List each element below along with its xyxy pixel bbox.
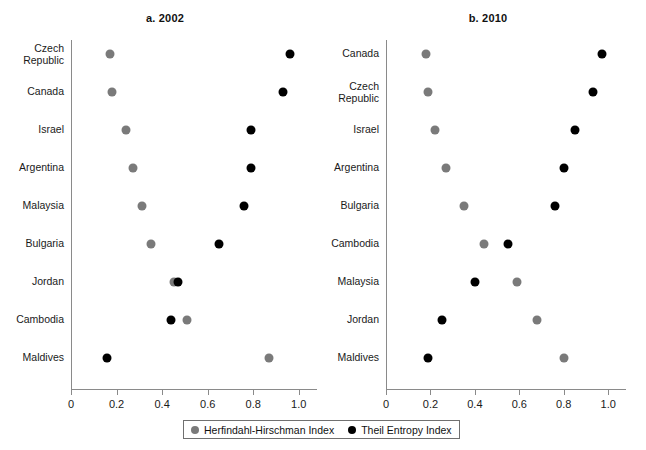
figure-dot-plots: a. 2002 00.20.40.60.81.0Czech RepublicCa…	[0, 0, 646, 450]
category-label-2010-1: Czech Republic	[330, 81, 379, 104]
data-point-theil-2002-8	[103, 354, 112, 363]
legend-entry-theil: Theil Entropy Index	[348, 424, 451, 436]
category-label-2002-1: Canada	[0, 86, 64, 98]
category-label-2002-2: Israel	[0, 124, 64, 136]
category-label-2010-4: Bulgaria	[330, 200, 379, 212]
data-point-theil-2010-0	[597, 50, 606, 59]
category-label-2002-3: Argentina	[0, 162, 64, 174]
data-point-theil-2002-4	[240, 202, 249, 211]
category-label-2010-3: Argentina	[330, 162, 379, 174]
panel-title-2002: a. 2002	[0, 12, 330, 24]
data-point-hhi-2002-0	[105, 50, 114, 59]
data-point-theil-2010-6	[470, 278, 479, 287]
x-tick-2002-0	[71, 390, 72, 395]
x-tick-label-2002-3: 0.6	[200, 398, 215, 410]
x-tick-2002-3	[208, 390, 209, 395]
y-axis-line-2010	[386, 40, 387, 390]
category-label-2002-5: Bulgaria	[0, 238, 64, 250]
x-tick-2002-4	[253, 390, 254, 395]
legend-label-hhi: Herfindahl-Hirschman Index	[204, 424, 334, 436]
black-circle-icon	[348, 426, 356, 434]
x-tick-2002-5	[299, 390, 300, 395]
category-label-2010-0: Canada	[330, 48, 379, 60]
data-point-theil-2010-5	[504, 240, 513, 249]
data-point-theil-2002-3	[246, 164, 255, 173]
panel-2002: a. 2002 00.20.40.60.81.0Czech RepublicCa…	[0, 0, 330, 450]
x-tick-label-2010-1: 0.2	[423, 398, 438, 410]
legend-label-theil: Theil Entropy Index	[361, 424, 451, 436]
data-point-theil-2002-6	[174, 278, 183, 287]
category-label-2002-4: Malaysia	[0, 200, 64, 212]
data-point-theil-2002-5	[215, 240, 224, 249]
x-tick-label-2010-0: 0	[383, 398, 389, 410]
data-point-theil-2010-1	[588, 88, 597, 97]
x-tick-label-2010-2: 0.4	[467, 398, 482, 410]
data-point-hhi-2010-6	[513, 278, 522, 287]
x-tick-label-2010-5: 1.0	[601, 398, 616, 410]
panel-title-2010: b. 2010	[330, 12, 646, 24]
category-label-2010-2: Israel	[330, 124, 379, 136]
data-point-hhi-2002-2	[121, 126, 130, 135]
data-point-hhi-2010-7	[533, 316, 542, 325]
x-axis-line-2010	[386, 389, 626, 390]
data-point-theil-2002-0	[285, 50, 294, 59]
x-tick-2010-2	[475, 390, 476, 395]
data-point-hhi-2002-4	[137, 202, 146, 211]
x-axis-line-2002	[71, 389, 317, 390]
x-tick-label-2002-5: 1.0	[291, 398, 306, 410]
category-label-2002-0: Czech Republic	[0, 43, 64, 66]
x-tick-2002-2	[162, 390, 163, 395]
x-tick-2010-0	[386, 390, 387, 395]
x-tick-2010-5	[608, 390, 609, 395]
legend-entry-hhi: Herfindahl-Hirschman Index	[191, 424, 334, 436]
x-tick-2010-4	[564, 390, 565, 395]
data-point-theil-2010-8	[424, 354, 433, 363]
gray-circle-icon	[191, 426, 199, 434]
category-label-2002-8: Maldives	[0, 352, 64, 364]
data-point-hhi-2010-1	[424, 88, 433, 97]
category-label-2010-6: Malaysia	[330, 276, 379, 288]
data-point-hhi-2010-2	[430, 126, 439, 135]
y-axis-line-2002	[71, 40, 72, 390]
data-point-hhi-2010-8	[559, 354, 568, 363]
data-point-theil-2010-2	[570, 126, 579, 135]
x-tick-label-2002-4: 0.8	[246, 398, 261, 410]
data-point-hhi-2002-5	[146, 240, 155, 249]
data-point-hhi-2010-3	[442, 164, 451, 173]
data-point-theil-2002-1	[278, 88, 287, 97]
data-point-theil-2002-7	[167, 316, 176, 325]
data-point-theil-2010-7	[437, 316, 446, 325]
plot-area-2002	[71, 40, 317, 390]
data-point-hhi-2010-5	[479, 240, 488, 249]
data-point-hhi-2010-4	[459, 202, 468, 211]
data-point-hhi-2002-8	[265, 354, 274, 363]
panel-2010: b. 2010 00.20.40.60.81.0CanadaCzech Repu…	[330, 0, 646, 450]
data-point-hhi-2010-0	[422, 50, 431, 59]
x-tick-label-2010-4: 0.8	[556, 398, 571, 410]
x-tick-2002-1	[117, 390, 118, 395]
data-point-theil-2002-2	[246, 126, 255, 135]
category-label-2002-6: Jordan	[0, 276, 64, 288]
plot-area-2010	[386, 40, 626, 390]
data-point-hhi-2002-3	[128, 164, 137, 173]
x-tick-2010-3	[519, 390, 520, 395]
x-tick-label-2002-2: 0.4	[154, 398, 169, 410]
data-point-theil-2010-4	[550, 202, 559, 211]
category-label-2002-7: Cambodia	[0, 314, 64, 326]
x-tick-label-2010-3: 0.6	[512, 398, 527, 410]
data-point-theil-2010-3	[559, 164, 568, 173]
x-tick-label-2002-0: 0	[68, 398, 74, 410]
category-label-2010-8: Maldives	[330, 352, 379, 364]
category-label-2010-5: Cambodia	[330, 238, 379, 250]
data-point-hhi-2002-1	[108, 88, 117, 97]
category-label-2010-7: Jordan	[330, 314, 379, 326]
chart-legend: Herfindahl-Hirschman Index Theil Entropy…	[183, 420, 460, 439]
x-tick-label-2002-1: 0.2	[109, 398, 124, 410]
x-tick-2010-1	[430, 390, 431, 395]
data-point-hhi-2002-7	[183, 316, 192, 325]
